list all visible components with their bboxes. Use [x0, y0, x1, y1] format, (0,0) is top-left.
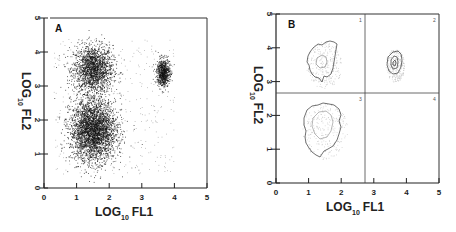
panel-b: 1 2 3 4 012345012345 B LOG10FL1 LOG10FL2	[249, 12, 442, 216]
x-axis-title-b: LOG10FL1	[326, 200, 384, 216]
y-tick-label: 4	[265, 46, 274, 51]
background-dots-b	[303, 42, 405, 160]
y-axis-title-b: LOG10FL2	[249, 66, 265, 124]
y-tick-label: 2	[33, 118, 42, 123]
x-axis-title-a: LOG10FL1	[95, 205, 153, 221]
x-tick-label: 2	[339, 188, 344, 197]
x-tick-label: 1	[306, 188, 311, 197]
figure: 012345012345 A LOG10FL1 LOG10FL2 1 2 3 4	[0, 0, 456, 232]
x-tick-label: 3	[140, 193, 145, 202]
panel-a: 012345012345 A LOG10FL1 LOG10FL2	[17, 16, 210, 221]
y-axis-title-a: LOG10FL2	[17, 72, 33, 130]
x-tick-label: 1	[74, 193, 79, 202]
x-tick-label: 2	[107, 193, 112, 202]
quadrant-label-2: 2	[433, 17, 436, 23]
y-tick-label: 0	[265, 181, 274, 186]
y-tick-label: 3	[265, 79, 274, 84]
contour-q1-inner	[316, 55, 327, 68]
x-tick-label: 0	[274, 188, 279, 197]
x-tick-label: 5	[205, 193, 210, 202]
panel-label-a: A	[55, 23, 62, 34]
x-tick-label: 4	[172, 193, 177, 202]
x-tick-label: 5	[437, 188, 442, 197]
ticks-b: 012345012345	[265, 12, 442, 197]
y-tick-label: 5	[265, 12, 274, 17]
x-tick-label: 3	[372, 188, 377, 197]
y-tick-label: 5	[33, 16, 42, 21]
y-tick-label: 1	[33, 152, 42, 157]
quadrant-label-1: 1	[359, 17, 362, 23]
ticks-a: 012345012345	[33, 16, 210, 202]
y-tick-label: 3	[33, 84, 42, 89]
x-tick-label: 4	[404, 188, 409, 197]
panel-label-b: B	[288, 19, 295, 30]
y-tick-label: 4	[33, 50, 42, 55]
y-tick-label: 0	[33, 186, 42, 191]
contour-q1-outer	[307, 41, 337, 82]
y-tick-label: 1	[265, 147, 274, 152]
x-tick-label: 0	[42, 193, 47, 202]
y-tick-label: 2	[265, 113, 274, 118]
scatter-points-a	[54, 30, 175, 183]
quadrant-label-4: 4	[433, 96, 436, 102]
quadrant-label-3: 3	[359, 96, 362, 102]
